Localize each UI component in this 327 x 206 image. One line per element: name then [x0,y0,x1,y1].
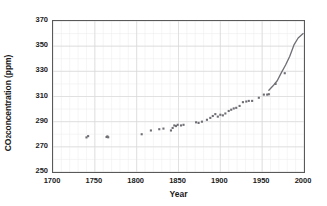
data-point [219,114,221,116]
y-axis-tick-label: 310 [26,92,48,100]
data-point [268,93,270,95]
y-axis-tick-label: 270 [26,142,48,150]
data-point [170,129,172,131]
plot-area [52,20,305,173]
data-point [206,119,208,121]
x-axis-tick-label: 1900 [199,177,239,185]
data-point [217,116,219,118]
x-axis-tick-label: 1700 [32,177,72,185]
data-point [224,112,226,114]
data-point [233,107,235,109]
data-point [248,100,250,102]
data-point [235,107,237,109]
data-point [228,110,230,112]
data-point [212,115,214,117]
data-point [107,136,109,138]
series-line-mauna-loa [269,34,303,91]
grid-major [53,21,304,172]
x-axis-tick-label: 2000 [283,177,323,185]
x-axis-tick-label: 1950 [241,177,281,185]
series-points-ice-core [85,72,285,138]
data-point [172,127,174,129]
data-point [195,121,197,123]
y-axis-tick-label: 290 [26,117,48,125]
y-axis-tick-label: 350 [26,41,48,49]
data-point [180,124,182,126]
x-axis-tick-label: 1850 [158,177,198,185]
y-axis-tick-label: 330 [26,66,48,74]
co2-concentration-chart: CO2 concentration (ppm) 2502702903103303… [0,0,327,206]
data-point [230,109,232,111]
data-point [141,133,143,135]
data-point [87,135,89,137]
data-point [263,94,265,96]
y-axis-title-subscript: 2 [5,135,12,139]
y-axis-tick-label: 370 [26,16,48,24]
data-point [214,113,216,115]
data-point [275,83,277,85]
data-point [158,128,160,130]
data-point [201,121,203,123]
data-point [239,105,241,107]
data-point [251,100,253,102]
data-point [284,72,286,74]
y-axis-title: CO2 concentration (ppm) [0,0,16,206]
data-point [162,128,164,130]
plot-canvas [53,21,304,172]
y-axis-title-suffix: concentration (ppm) [3,55,13,135]
data-line [269,34,303,91]
data-point [209,117,211,119]
x-axis-tick-label: 1750 [74,177,114,185]
data-point [182,124,184,126]
data-point [258,97,260,99]
data-point [245,100,247,102]
x-axis-tick-label: 1800 [116,177,156,185]
x-axis-tick-labels: 1700175018001850190019502000 [0,177,327,189]
data-point [150,129,152,131]
data-point [198,122,200,124]
data-point [242,101,244,103]
x-axis-title: Year [52,189,305,199]
data-point [177,124,179,126]
y-axis-title-prefix: CO [3,139,13,152]
y-axis-tick-label: 250 [26,167,48,175]
data-point [222,114,224,116]
